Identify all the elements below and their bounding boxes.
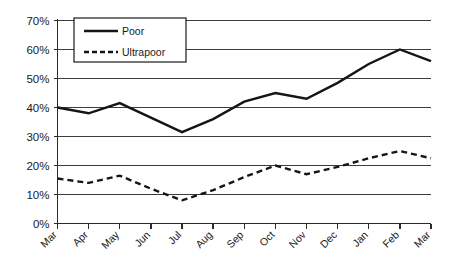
chart-canvas: 70%60%50%40%30%20%10%0% MarAprMayJunJulA… [0,0,450,273]
x-axis-label-4: Jul [165,228,183,246]
y-axis-label-50: 50% [26,73,49,85]
x-axis-label-5: Aug [193,228,215,250]
line-chart: 70%60%50%40%30%20%10%0% MarAprMayJunJulA… [0,0,450,273]
legend-label-ultrapoor: Ultrapoor [122,46,166,58]
y-axis-label-60: 60% [26,44,49,56]
x-axis-label-1: Apr [70,228,90,248]
x-axis-label-12: Mar [411,228,433,250]
y-axis-label-30: 30% [26,131,49,143]
x-axis-label-8: Nov [286,228,308,250]
x-axis-tick-labels: MarAprMayJunJulAugSepOctNovDecJanFebMar [38,228,433,251]
series-line-ultrapoor [58,151,432,200]
x-axis-label-3: Jun [132,228,153,249]
x-axis-label-6: Sep [224,228,246,250]
y-axis-label-20: 20% [26,160,49,172]
y-axis-label-40: 40% [26,102,49,114]
x-axis-label-9: Dec [317,228,339,250]
y-axis-label-0: 0% [33,218,50,230]
legend-label-poor: Poor [122,25,145,37]
x-axis-label-10: Jan [350,228,371,249]
x-axis-label-11: Feb [380,228,401,249]
data-series [58,50,432,201]
x-axis-label-7: Oct [257,228,277,248]
y-axis-label-10: 10% [26,189,49,201]
x-axis-label-0: Mar [38,228,60,250]
x-axis-label-2: May [99,228,122,251]
y-axis-label-70: 70% [26,15,49,27]
y-axis-tick-labels: 70%60%50%40%30%20%10%0% [26,15,49,230]
chart-legend: PoorUltrapoor [74,18,186,62]
